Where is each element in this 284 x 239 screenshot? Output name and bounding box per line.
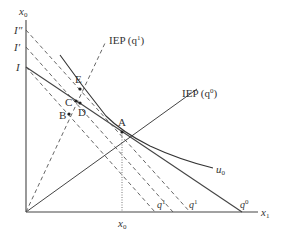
- x0-tick-label: x0: [117, 217, 127, 231]
- point-a-label: A: [118, 116, 126, 128]
- point-a: [120, 130, 123, 133]
- x-axis-label: x1: [260, 206, 270, 220]
- budget-line-i-double-prime: [26, 30, 190, 212]
- q1-label-a: q1: [157, 198, 166, 210]
- q0-label: q0: [240, 198, 249, 210]
- y-axis-label: x0: [18, 5, 28, 19]
- iep-q1-line: [26, 41, 106, 212]
- point-e: [78, 87, 81, 90]
- u0-label: u0: [216, 163, 226, 177]
- point-d: [78, 101, 81, 104]
- point-c-label: C: [65, 96, 72, 108]
- iep-diagram: x0 x1 x0 I″ I′ I IEP (q1) IEP (q0) u0 q1…: [0, 0, 284, 239]
- point-e-label: E: [75, 73, 82, 85]
- point-d-label: D: [78, 106, 86, 118]
- intercept-i: I: [15, 61, 21, 73]
- q1-label-b: q1: [189, 198, 198, 210]
- intercept-i-double-prime: I″: [13, 24, 23, 36]
- iep-q1-label: IEP (q1): [109, 34, 145, 47]
- point-c: [74, 99, 77, 102]
- intercept-i-prime: I′: [13, 41, 21, 53]
- iep-q0-line: [26, 89, 197, 212]
- iep-q0-label: IEP (q0): [182, 87, 218, 100]
- budget-line-i-prime: [26, 47, 173, 212]
- point-b: [67, 112, 70, 115]
- point-b-label: B: [59, 109, 66, 121]
- budget-line-i-dashed: [26, 67, 155, 212]
